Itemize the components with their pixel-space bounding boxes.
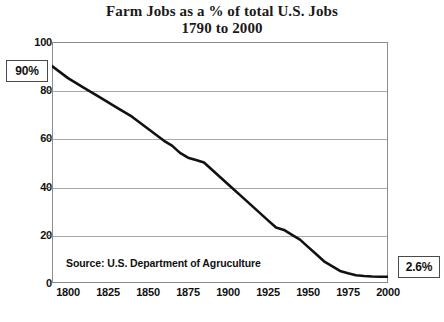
x-tick-label-1850: 1850: [136, 286, 160, 298]
end-value-callout: 2.6%: [398, 256, 440, 278]
source-note: Source: U.S. Department of Agruculture: [66, 257, 261, 269]
x-tick-label-1900: 1900: [216, 286, 240, 298]
x-tick-label-1925: 1925: [256, 286, 280, 298]
x-axis: 180018251850187519001925195019752000: [0, 286, 444, 306]
x-tick-label-1875: 1875: [176, 286, 200, 298]
x-tick-label-2000: 2000: [376, 286, 400, 298]
y-tick-label-20: 20: [6, 229, 52, 241]
x-tick-label-1825: 1825: [96, 286, 120, 298]
y-tick-label-100: 100: [6, 36, 52, 48]
start-value-callout: 90%: [6, 60, 48, 82]
y-tick-label-80: 80: [6, 84, 52, 96]
chart-title: Farm Jobs as a % of total U.S. Jobs 1790…: [0, 3, 444, 37]
chart-screenshot: Farm Jobs as a % of total U.S. Jobs 1790…: [0, 0, 444, 322]
chart-title-line-2: 1790 to 2000: [0, 20, 444, 37]
y-tick-label-60: 60: [6, 132, 52, 144]
series-line-farm-jobs: [52, 42, 388, 283]
chart-title-line-1: Farm Jobs as a % of total U.S. Jobs: [0, 3, 444, 20]
x-tick-label-1800: 1800: [56, 286, 80, 298]
y-tick-label-40: 40: [6, 181, 52, 193]
x-tick-label-1950: 1950: [296, 286, 320, 298]
x-tick-label-1975: 1975: [336, 286, 360, 298]
